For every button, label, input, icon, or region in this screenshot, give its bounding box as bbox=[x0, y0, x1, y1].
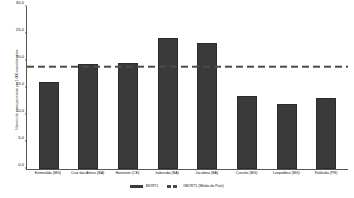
bar-slot bbox=[227, 7, 267, 169]
legend-label-mort1-media: #MORT1 (Média do País) bbox=[183, 185, 224, 189]
bar[interactable] bbox=[237, 96, 257, 169]
legend-dashed-line-swatch-icon bbox=[167, 185, 180, 188]
bar[interactable] bbox=[118, 63, 138, 169]
x-axis-label: Esmeralda (MG) bbox=[28, 172, 68, 176]
average-reference-line bbox=[27, 65, 348, 68]
y-axis-tick-label: 25,0 bbox=[16, 28, 27, 32]
bar-chart: Número de crianças mortas por 1.000 nasc… bbox=[0, 0, 354, 198]
x-axis-label: Curvelo (MG) bbox=[227, 172, 267, 176]
x-axis-label: Jacobina (BA) bbox=[187, 172, 227, 176]
x-axis-labels: Esmeralda (MG)Cruz das Almas (BA)Horizon… bbox=[26, 172, 348, 176]
bar[interactable] bbox=[197, 43, 217, 169]
bar-slot bbox=[148, 7, 188, 169]
bar-slot bbox=[306, 7, 346, 169]
legend-label-mort1: MORT1 bbox=[146, 185, 159, 189]
bars-layer bbox=[27, 7, 348, 169]
plot-area: 30,025,020,015,010,05,00,0 bbox=[26, 7, 348, 170]
bar[interactable] bbox=[78, 64, 98, 169]
bar-slot bbox=[29, 7, 69, 169]
x-axis-label: Itaberaba (BA) bbox=[147, 172, 187, 176]
x-axis-label: Horizonte (CE) bbox=[108, 172, 148, 176]
bar-slot bbox=[267, 7, 307, 169]
x-axis-label: Cruz das Almas (BA) bbox=[68, 172, 108, 176]
y-axis-tick-label: 20,0 bbox=[16, 55, 27, 59]
bar[interactable] bbox=[316, 98, 336, 169]
bar[interactable] bbox=[39, 82, 59, 169]
y-axis-tick-label: 0,0 bbox=[18, 163, 27, 167]
x-axis-label: Leopoldina (MG) bbox=[267, 172, 307, 176]
legend-item-mort1-media: #MORT1 (Média do País) bbox=[167, 185, 223, 189]
y-axis-tick-label: 15,0 bbox=[16, 82, 27, 86]
y-axis-tick-label: 30,0 bbox=[16, 1, 27, 5]
legend-bar-swatch-icon bbox=[130, 185, 143, 188]
bar-slot bbox=[108, 7, 148, 169]
y-axis-tick-label: 5,0 bbox=[18, 136, 27, 140]
bar[interactable] bbox=[277, 104, 297, 169]
x-axis-label: Rolândia (PR) bbox=[306, 172, 346, 176]
y-axis-title: Número de crianças mortas por 1.000 nasc… bbox=[16, 15, 19, 165]
bar[interactable] bbox=[158, 38, 178, 169]
legend-item-mort1: MORT1 bbox=[130, 185, 158, 189]
y-axis-tick-label: 10,0 bbox=[16, 109, 27, 113]
bar-slot bbox=[188, 7, 228, 169]
chart-legend: MORT1 #MORT1 (Média do País) bbox=[0, 185, 354, 189]
bar-slot bbox=[69, 7, 109, 169]
